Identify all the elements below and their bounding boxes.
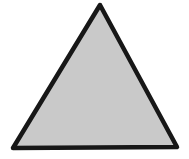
canvas <box>0 0 189 159</box>
triangle-figure <box>0 0 189 159</box>
triangle-shape <box>13 5 177 148</box>
